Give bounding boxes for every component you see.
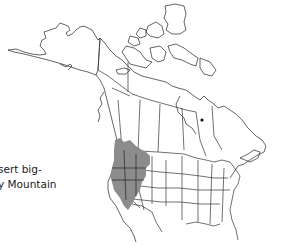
species-range [110,138,150,210]
alaska-outline [8,23,100,75]
occurrence-dot [200,118,203,121]
legend-line-1: sert big- [0,163,42,175]
arctic-islands [116,4,216,76]
range-map [0,0,282,246]
legend-line-2: y Mountain [0,178,56,190]
